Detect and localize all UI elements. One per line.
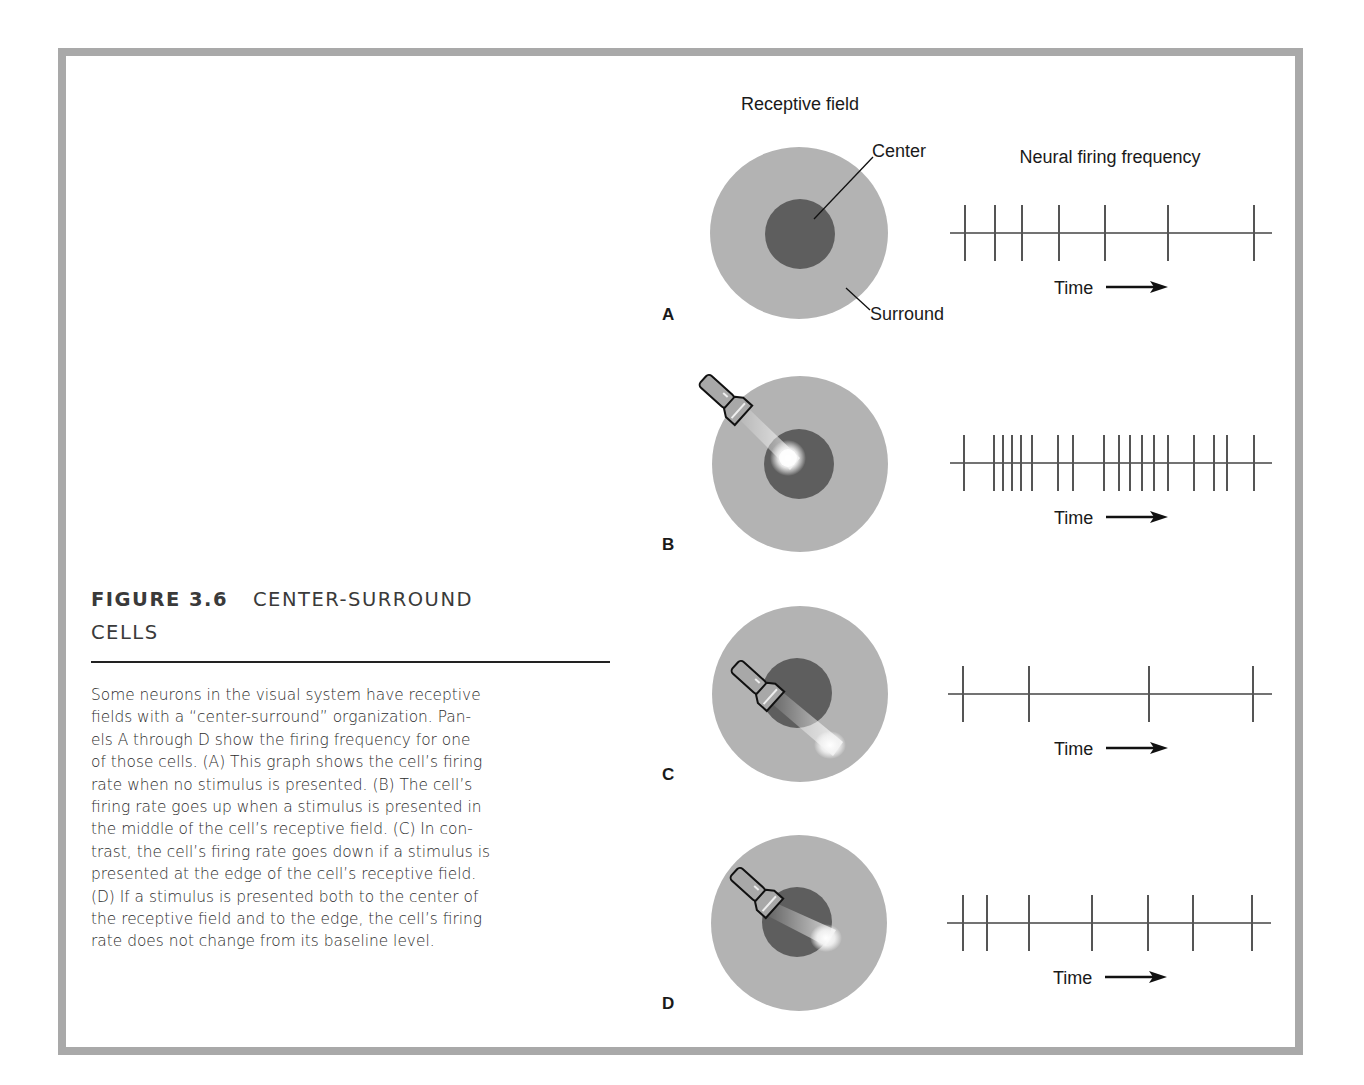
spike-train-c — [948, 666, 1272, 722]
surround-label: Surround — [870, 304, 944, 324]
spike-train-d — [947, 895, 1271, 951]
arrow-right-icon — [1106, 742, 1168, 754]
time-label: Time — [1054, 739, 1093, 759]
receptive-field-label: Receptive field — [741, 94, 859, 114]
time-label: Time — [1054, 278, 1093, 298]
arrow-right-icon — [1105, 971, 1167, 983]
spike-train-b — [950, 435, 1272, 491]
panel-label-a: A — [662, 305, 674, 324]
light-spot — [810, 924, 842, 952]
light-spot — [814, 731, 846, 759]
panel-label-b: B — [662, 535, 674, 554]
panel-label-c: C — [662, 765, 674, 784]
center-region — [765, 199, 835, 269]
neural-firing-frequency-label: Neural firing frequency — [1019, 147, 1200, 167]
spike-train-a — [950, 205, 1272, 261]
time-label: Time — [1054, 508, 1093, 528]
panel-label-d: D — [662, 994, 674, 1013]
flashlight-icon — [695, 370, 753, 425]
panel-a: Center Surround A Time — [662, 141, 1272, 324]
panel-c: C Time — [662, 606, 1272, 784]
arrow-right-icon — [1106, 281, 1168, 293]
arrow-right-icon — [1106, 511, 1168, 523]
time-label: Time — [1053, 968, 1092, 988]
diagram: Receptive field Neural firing frequency … — [0, 0, 1364, 1085]
panel-d: D Time — [662, 835, 1271, 1013]
center-label: Center — [872, 141, 926, 161]
panel-b: B Time — [662, 370, 1272, 554]
